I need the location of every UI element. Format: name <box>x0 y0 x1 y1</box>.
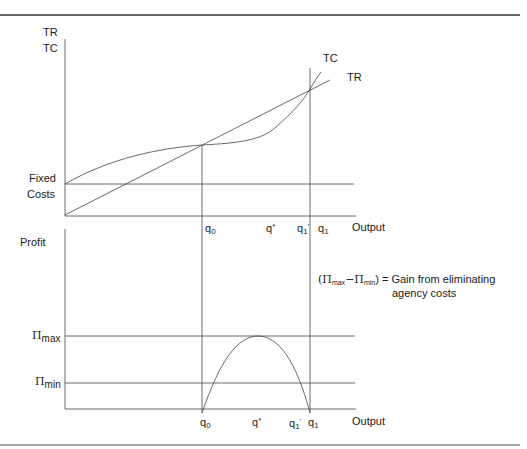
annotation-min-sub: min <box>364 279 375 286</box>
q-subscript: 1 <box>324 227 328 236</box>
fixed-costs-label-2: Costs <box>27 188 55 200</box>
profit-label: Profit <box>20 236 46 248</box>
q-superscript: * <box>258 416 261 425</box>
bottom-tick-q1: q1 <box>308 416 319 432</box>
pi-symbol: Π <box>32 329 42 342</box>
bottom-tick-qstar: q* <box>252 415 261 428</box>
annotation-text: ) = Gain from eliminating <box>375 273 495 285</box>
diagram-canvas <box>0 0 527 449</box>
tc-curve <box>65 72 321 184</box>
q-subscript: 1 <box>314 421 318 430</box>
top-tick-qstar: q* <box>266 221 275 234</box>
annotation-open: (Π <box>318 273 332 286</box>
top-tick-q0: q0 <box>205 222 216 238</box>
top-tick-q1: q1 <box>318 222 329 238</box>
y-label-tr: TR <box>43 26 58 38</box>
q-prime: ' <box>300 417 302 426</box>
y-label-tc: TC <box>43 42 58 54</box>
q-superscript: * <box>272 222 275 231</box>
pi-subscript: max <box>42 333 61 344</box>
q-subscript: 0 <box>211 227 215 236</box>
bottom-tick-q0: q0 <box>200 416 211 432</box>
pi-symbol: Π <box>35 375 45 388</box>
pi-max-label: Πmax <box>32 329 61 345</box>
q-subscript: 0 <box>206 421 210 430</box>
gain-annotation-line2: agency costs <box>392 287 456 299</box>
annotation-max-sub: max <box>332 279 345 286</box>
top-x-label: Output <box>352 221 385 233</box>
bottom-x-label: Output <box>352 415 385 427</box>
tr-line <box>65 80 330 215</box>
bottom-tick-q1-prime: q1' <box>289 416 301 433</box>
tr-curve-label: TR <box>347 71 362 83</box>
profit-curve <box>202 336 310 413</box>
fixed-costs-label-1: Fixed <box>29 172 56 184</box>
pi-min-label: Πmin <box>35 375 61 391</box>
pi-subscript: min <box>45 379 61 390</box>
q-prime: ' <box>308 222 310 231</box>
top-tick-q1-prime: q1' <box>297 221 309 238</box>
annotation-minus: −Π <box>345 273 364 286</box>
tc-curve-label: TC <box>323 52 338 64</box>
